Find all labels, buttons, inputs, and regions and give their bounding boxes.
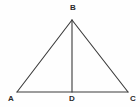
vertex-label-a: A (8, 95, 14, 103)
segment-ab (17, 20, 72, 92)
vertex-label-d: D (69, 95, 75, 103)
vertex-label-c: C (130, 95, 136, 103)
segment-bc (72, 20, 128, 92)
vertex-label-b: B (70, 4, 76, 12)
triangle-diagram-canvas (0, 0, 140, 107)
geometry-figure: B A D C (0, 0, 140, 107)
